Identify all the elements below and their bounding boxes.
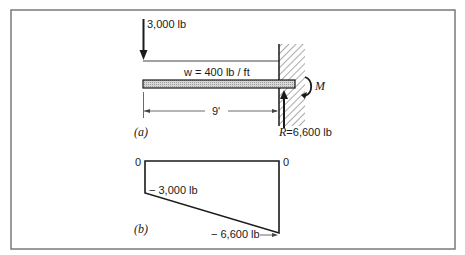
- part-a-label: (a): [134, 125, 148, 139]
- shear-right-pointer: [260, 233, 278, 237]
- shear-left-zero: 0: [135, 156, 141, 168]
- shear-diagram: [145, 161, 279, 233]
- beam: [143, 80, 295, 88]
- reaction-label: R=6,600 lb: [278, 125, 332, 139]
- moment-label: M: [314, 79, 326, 93]
- distributed-load-label: w = 400 lb / ft: [183, 66, 250, 78]
- point-load-label: 3,000 lb: [147, 18, 186, 30]
- cantilever-beam-figure: 3,000 lb w = 400 lb / ft M R=6,600 lb 9'…: [0, 0, 465, 255]
- part-b-label: (b): [134, 222, 148, 236]
- span-label: 9': [212, 105, 220, 117]
- shear-left-value: − 3,000 lb: [149, 184, 198, 196]
- shear-right-zero: 0: [283, 156, 289, 168]
- shear-right-value: − 6,600 lb: [211, 228, 260, 240]
- span-dimension: [144, 92, 279, 118]
- figure-frame: [11, 10, 455, 249]
